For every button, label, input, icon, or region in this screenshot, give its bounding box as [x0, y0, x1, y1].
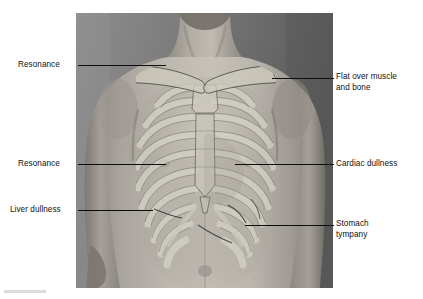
resonance-upper-label: Resonance — [18, 60, 60, 71]
liver-dullness-label: Liver dullness — [10, 205, 61, 216]
resonance-lower-label: Resonance — [18, 159, 60, 170]
stomach-tympany-label: Stomach tympany — [336, 219, 369, 240]
umbilicus — [198, 265, 212, 277]
bottom-registration-rule — [4, 290, 46, 293]
leader-line-liver-dullness — [78, 210, 153, 211]
leader-line-resonance-upper — [78, 65, 166, 66]
leader-line-cardiac-dullness — [235, 164, 334, 165]
leader-line-resonance-lower — [78, 164, 166, 165]
leader-line-flat-over-muscle — [272, 78, 334, 79]
cardiac-dullness-label: Cardiac dullness — [336, 159, 397, 170]
chest-percussion-figure: Resonance Flat over muscle and bone Reso… — [0, 0, 423, 299]
torso-photograph-image — [76, 13, 333, 288]
leader-line-stomach-tympany — [245, 225, 334, 226]
flat-over-muscle-label: Flat over muscle and bone — [336, 72, 397, 93]
torso-photograph — [76, 13, 333, 288]
